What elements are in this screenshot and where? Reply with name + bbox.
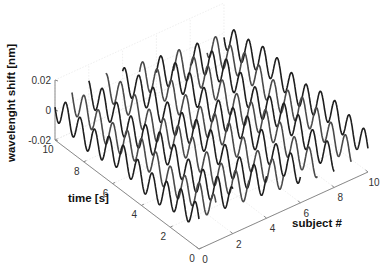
trace-subject-4 <box>123 68 267 196</box>
time-tick-label: 0 <box>189 253 195 264</box>
subject-tick <box>332 185 335 187</box>
time-tick-label: 2 <box>160 231 166 242</box>
z-tick-label: 0.02 <box>32 75 52 86</box>
z-tick-label: -0.02 <box>28 135 51 146</box>
y-axis-label: time [s] <box>68 192 109 204</box>
subject-tick <box>230 232 233 234</box>
time-tick-label: 10 <box>42 144 54 155</box>
time-tick <box>199 248 202 249</box>
trace-subject-10 <box>224 30 368 149</box>
subject-tick <box>298 201 301 203</box>
trace-subject-2 <box>89 81 233 208</box>
waterfall-plot: 02468100246810-0.0200.02 wavelenght shif… <box>0 0 382 275</box>
z-axis-label: wavelenght shift [nm] <box>5 44 17 163</box>
subject-tick-label: 4 <box>270 223 276 234</box>
z-tick-label: 0 <box>45 105 51 116</box>
time-tick <box>141 204 144 205</box>
trace-subject-8 <box>190 43 334 171</box>
time-tick-label: 4 <box>132 209 138 220</box>
subject-tick-label: 0 <box>202 254 208 265</box>
subject-tick-label: 2 <box>236 239 242 250</box>
subject-tick <box>366 170 369 172</box>
subject-tick-label: 8 <box>337 192 343 203</box>
grid-line <box>141 128 310 205</box>
subject-axis <box>199 172 368 249</box>
time-tick <box>170 226 173 227</box>
time-tick-label: 8 <box>74 166 80 177</box>
subject-tick <box>264 216 267 218</box>
time-tick <box>84 161 87 162</box>
x-axis-label: subject # <box>292 217 342 229</box>
subject-tick-label: 10 <box>368 177 380 188</box>
trace-subject-3 <box>106 74 250 202</box>
time-tick <box>113 182 116 183</box>
